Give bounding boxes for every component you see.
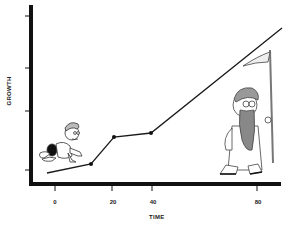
growth-chart: GROWTH TIME 0 20 40 80 [0, 0, 288, 226]
x-axis [29, 182, 281, 186]
x-tick-label: 80 [255, 199, 262, 205]
data-point [112, 135, 116, 139]
x-tick-label: 20 [110, 199, 117, 205]
baby-illustration [40, 123, 83, 162]
data-point [89, 162, 93, 166]
y-axis [29, 5, 33, 186]
x-tick-label: 40 [150, 199, 157, 205]
old-man-illustration [220, 50, 273, 174]
y-axis-title: GROWTH [6, 76, 12, 105]
data-point [149, 131, 153, 135]
x-axis-title: TIME [149, 214, 165, 220]
chart-canvas [0, 0, 288, 226]
x-tick-label: 0 [53, 199, 56, 205]
